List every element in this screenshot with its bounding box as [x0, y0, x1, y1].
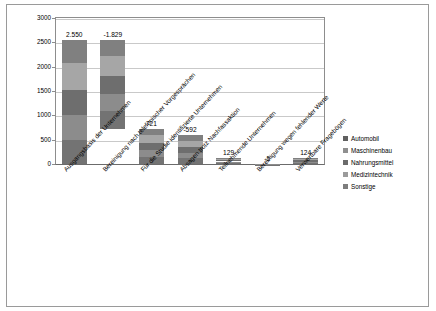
legend-swatch	[343, 172, 348, 177]
y-axis-tick-label: 3000	[7, 14, 51, 21]
chart-legend: AutomobilMaschinenbauNahrungsmittelMediz…	[343, 133, 427, 193]
gridline	[56, 43, 324, 44]
y-axis-tick-mark	[52, 164, 55, 165]
legend-label: Medizintechnik	[351, 171, 393, 178]
bar-segment	[62, 115, 87, 139]
bar-segment	[62, 40, 87, 63]
bar-segment	[100, 40, 125, 57]
legend-label: Automobil	[351, 135, 379, 142]
bar-value-label: -1.829	[91, 31, 135, 39]
gridline	[56, 92, 324, 93]
legend-item: Nahrungsmittel	[343, 157, 427, 167]
y-axis-tick-label: 500	[7, 136, 51, 143]
legend-label: Nahrungsmittel	[351, 159, 393, 166]
y-axis-tick-mark	[52, 140, 55, 141]
legend-swatch	[343, 184, 348, 189]
legend-label: Maschinenbau	[351, 147, 392, 154]
gridline	[56, 19, 324, 20]
legend-item: Sonstige	[343, 181, 427, 191]
y-axis-tick-label: 0	[7, 160, 51, 167]
y-axis-tick-label: 1500	[7, 87, 51, 94]
legend-item: Maschinenbau	[343, 145, 427, 155]
gridline	[56, 68, 324, 69]
y-axis-tick-mark	[52, 18, 55, 19]
bar-segment	[139, 135, 164, 143]
y-axis-tick-label: 2500	[7, 38, 51, 45]
y-axis-tick-mark	[52, 91, 55, 92]
legend-label: Sonstige	[351, 183, 376, 190]
bar-segment	[62, 63, 87, 90]
bar-segment	[100, 56, 125, 75]
legend-swatch	[343, 136, 348, 141]
y-axis-tick-mark	[52, 67, 55, 68]
y-axis-tick-mark	[52, 115, 55, 116]
legend-item: Medizintechnik	[343, 169, 427, 179]
bar-segment	[100, 76, 125, 94]
y-axis-tick-label: 1000	[7, 111, 51, 118]
bar-segment	[62, 90, 87, 115]
legend-item: Automobil	[343, 133, 427, 143]
bar-value-label: 2.550	[52, 31, 96, 39]
y-axis-tick-label: 2000	[7, 63, 51, 70]
legend-swatch	[343, 160, 348, 165]
y-axis-tick-mark	[52, 42, 55, 43]
legend-swatch	[343, 148, 348, 153]
chart-frame: 2.550-1.829721-592129-5124 Ausgangsbasis…	[6, 4, 429, 307]
